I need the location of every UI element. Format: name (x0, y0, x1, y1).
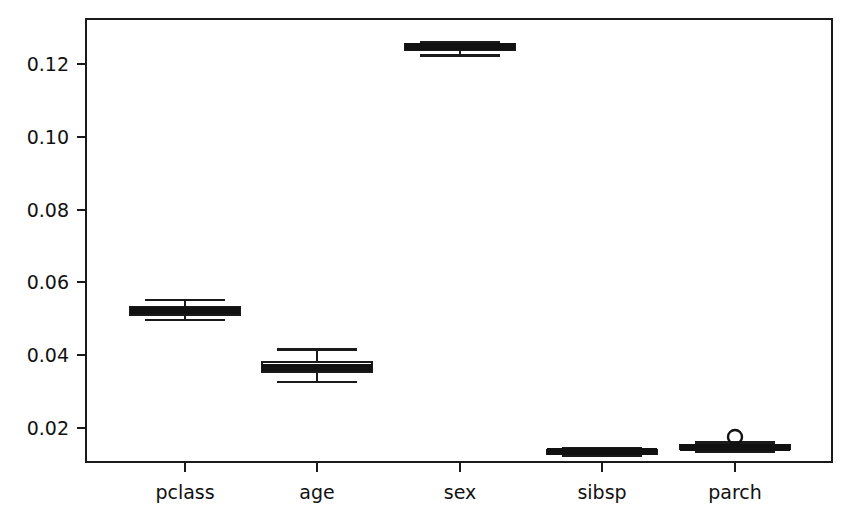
plot-frame (86, 19, 832, 462)
y-axis-tick-label: 0.08 (27, 199, 69, 221)
x-axis-tick-label: parch (708, 481, 762, 503)
y-axis-tick-label: 0.02 (27, 417, 69, 439)
boxplot-canvas: 0.020.040.060.080.100.12 pclassagesexsib… (0, 0, 858, 532)
x-axis: pclassagesexsibspparch (155, 462, 761, 503)
boxplot-figure: 0.020.040.060.080.100.12 pclassagesexsib… (0, 0, 858, 532)
box-sex (405, 42, 515, 55)
x-axis-tick-label: sibsp (577, 481, 626, 503)
box-pclass (130, 300, 240, 320)
x-axis-tick-label: sex (444, 481, 477, 503)
frame-border (86, 19, 832, 462)
y-axis-tick-label: 0.12 (27, 53, 69, 75)
box-parch (680, 430, 790, 452)
box-age (262, 349, 372, 382)
y-axis: 0.020.040.060.080.100.12 (27, 53, 86, 438)
y-axis-tick-label: 0.10 (27, 126, 69, 148)
y-axis-tick-label: 0.06 (27, 271, 69, 293)
y-axis-tick-label: 0.04 (27, 344, 69, 366)
x-axis-tick-label: age (299, 481, 334, 503)
box-sibsp (547, 448, 657, 456)
box-series (130, 42, 790, 456)
x-axis-tick-label: pclass (155, 481, 214, 503)
